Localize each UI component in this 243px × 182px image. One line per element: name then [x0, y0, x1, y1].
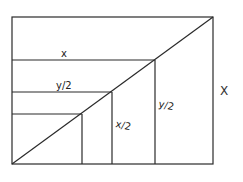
label-x-half-side: x/2 — [115, 118, 133, 132]
label-x-top: x — [61, 48, 67, 59]
label-y-half-side: y/2 — [158, 98, 176, 112]
label-y-half-top: y/2 — [56, 80, 72, 91]
diagram-canvas: x y/2 x/2 y/2 X — [0, 0, 243, 182]
label-X-right: X — [220, 84, 228, 98]
